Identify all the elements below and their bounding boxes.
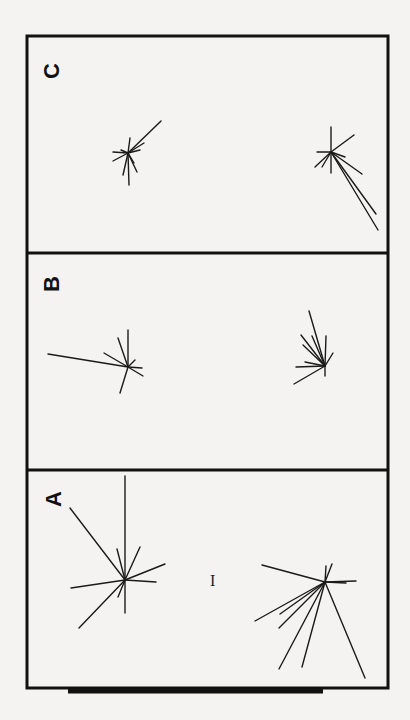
rosette-ray <box>325 582 346 583</box>
rosette-ray <box>331 135 354 152</box>
rosette-ray <box>325 582 365 678</box>
scale-marker: I <box>210 573 215 589</box>
rosette-ray <box>123 153 128 175</box>
rosette-b-1 <box>48 330 143 393</box>
rosette-ray <box>262 565 325 582</box>
rosette-ray <box>325 353 333 366</box>
panel-label-c: C <box>41 61 63 81</box>
rosette-ray <box>70 508 125 580</box>
rosette-ray <box>294 366 325 384</box>
rosette-c-1 <box>113 121 161 185</box>
figure-canvas <box>0 0 410 720</box>
rosette-plots <box>48 121 378 678</box>
rosette-ray <box>125 580 156 582</box>
figure-frame <box>27 36 388 688</box>
rosette-b-2 <box>294 311 333 384</box>
rosette-ray <box>128 153 129 185</box>
panel-label-a: A <box>43 489 65 509</box>
rosette-ray <box>331 152 378 230</box>
panel-dividers <box>27 253 388 470</box>
rosette-ray <box>296 366 325 367</box>
rosette-ray <box>331 152 376 214</box>
rosette-ray <box>79 580 125 628</box>
rosette-a-2 <box>255 564 365 678</box>
rosette-ray <box>128 360 135 367</box>
rosette-ray <box>118 580 125 597</box>
rosette-ray <box>325 336 326 366</box>
rosette-ray <box>71 580 125 588</box>
rose-diagram-figure: C B A I <box>0 0 410 720</box>
panel-label-b: B <box>41 274 63 294</box>
rosette-ray <box>302 582 325 667</box>
rosette-a-1 <box>70 476 165 628</box>
rosette-ray <box>120 367 128 393</box>
rosette-ray <box>128 121 161 153</box>
rosette-c-2 <box>315 127 378 230</box>
rosette-ray <box>331 152 362 174</box>
